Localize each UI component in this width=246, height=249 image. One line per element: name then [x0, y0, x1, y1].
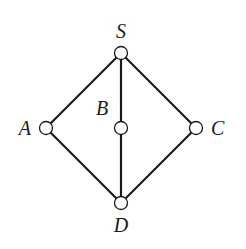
- node-S: [115, 47, 128, 60]
- node-label-A: A: [17, 117, 32, 139]
- node-C: [190, 122, 203, 135]
- node-label-C: C: [211, 117, 225, 139]
- node-label-S: S: [116, 20, 126, 42]
- diagram-canvas: SABCD: [0, 0, 246, 249]
- lattice-diagram: SABCD: [0, 0, 246, 249]
- edge-C-D: [121, 128, 196, 203]
- node-B: [115, 122, 128, 135]
- node-label-D: D: [113, 214, 129, 236]
- node-A: [40, 122, 53, 135]
- edge-S-C: [121, 53, 196, 128]
- node-D: [115, 197, 128, 210]
- edge-S-A: [46, 53, 121, 128]
- edge-A-D: [46, 128, 121, 203]
- node-label-B: B: [96, 97, 108, 119]
